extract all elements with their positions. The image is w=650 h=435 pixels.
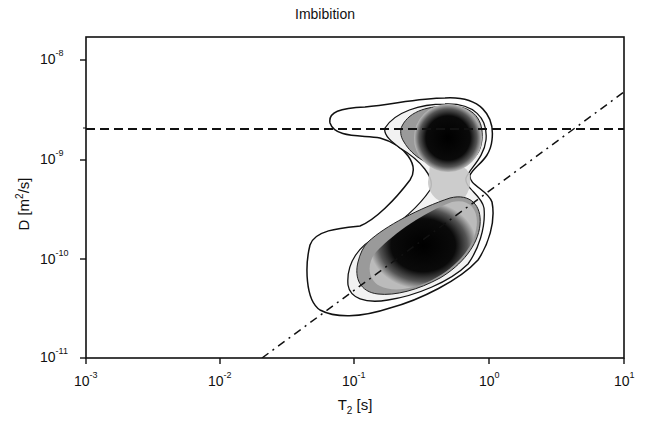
y-ticks bbox=[80, 60, 86, 358]
plot-area bbox=[0, 0, 650, 435]
x-ticks bbox=[86, 358, 624, 364]
water-peak bbox=[414, 104, 482, 172]
